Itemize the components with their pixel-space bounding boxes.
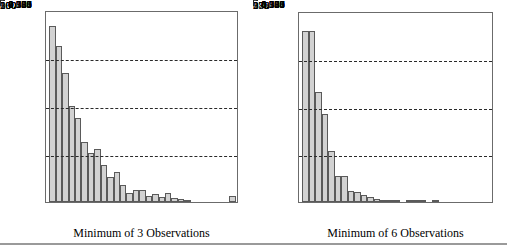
histogram-bar	[380, 200, 387, 202]
gridline	[46, 156, 237, 157]
histogram-panel-minimum-of-6: 093186279372 0.0000.1860.3710.5570.7430.…	[253, 0, 507, 248]
x-axis-tick-label: 1.300	[253, 0, 293, 11]
x-axis-title-right: Minimum of 6 Observations	[298, 226, 493, 241]
bar-series-left	[46, 12, 237, 202]
gridline	[299, 156, 492, 157]
histogram-bar	[406, 200, 413, 202]
histogram-bar	[361, 195, 368, 202]
histogram-bar	[309, 31, 316, 202]
bar-series-right	[299, 13, 492, 202]
x-axis-title-left: Minimum of 3 Observations	[45, 226, 238, 241]
gridline	[299, 61, 492, 62]
page-bottom-rule	[0, 243, 507, 245]
histogram-bar	[419, 200, 426, 202]
histogram-bar	[374, 199, 381, 202]
histogram-bar	[341, 176, 348, 202]
histogram-panel-minimum-of-3: 050100150200 0.0000.1860.3710.5570.7430.…	[0, 0, 253, 248]
histogram-bar	[328, 151, 335, 202]
histogram-bar	[432, 200, 439, 202]
x-axis-minor-tick	[0, 0, 1, 5]
histogram-bar	[393, 200, 400, 202]
x-axis-minor-tick	[253, 0, 254, 5]
plot-area-right	[298, 12, 493, 203]
figure-two-histograms: 050100150200 0.0000.1860.3710.5570.7430.…	[0, 0, 507, 248]
histogram-bar	[413, 200, 420, 202]
gridline	[299, 109, 492, 110]
histogram-bar	[184, 200, 190, 202]
gridline	[46, 60, 237, 61]
x-axis-tick-label: 1.300	[0, 0, 40, 11]
histogram-bar	[229, 196, 235, 202]
plot-area-left	[45, 11, 238, 203]
gridline	[46, 108, 237, 109]
